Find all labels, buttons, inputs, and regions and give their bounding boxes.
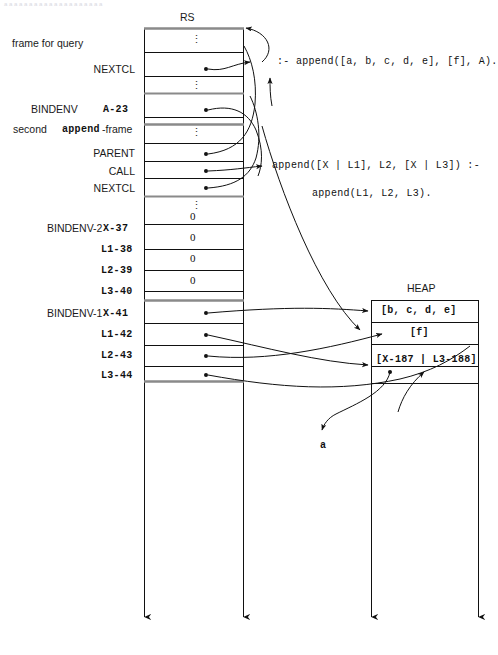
label-bindenv-1: BINDENV-1 [47,308,102,319]
heap-title: HEAP [407,283,436,294]
arrow-l142-to-heap-pair [208,335,368,365]
label-nextcl-1: NEXTCL [0,64,135,75]
label-frame-for-query: frame for query [0,38,135,49]
rs-cell-ellipsis-3: ⋮ [191,127,202,138]
label-second-append-frame-prefix: second [13,124,50,135]
label-l3-44: L3-44 [101,371,133,381]
clause-body: append(L1, L2, L3). [312,189,432,199]
rs-title: RS [180,12,195,23]
arrow-bindenv-a23 [208,108,262,176]
rs-cell-value-l138: 0 [190,232,196,243]
rs-cell-value-x37: 0 [190,211,196,222]
arrow-up-into-heap-cell [398,372,424,412]
clause-query: :- append([a, b, c, d, e], [f], A). [277,57,498,67]
rs-cell-ellipsis-2: ⋮ [191,80,202,91]
arrow-nextcl2 [208,96,259,188]
label-nextcl-2: NEXTCL [0,183,135,194]
heap-box [371,300,479,617]
label-bindenv-2: BINDENV-2 [47,223,102,234]
label-bindenv: BINDENV [31,104,78,115]
rs-cell-ellipsis-1: ⋮ [191,34,202,45]
heap-cell-f: [f] [410,328,429,338]
label-bindenv2-x37: X-37 [103,224,128,234]
label-l2-39: L2-39 [101,266,133,276]
clause-head: append([X | L1], L2, [X | L3]) :- [272,161,480,171]
heap-cell-pair: [X-187 | L3-188] [376,355,477,365]
arrow-frame-to-heap-cell [262,126,360,330]
rs-cell-value-l239: 0 [190,253,196,264]
label-l1-42: L1-42 [101,330,133,340]
arrow-head-to-append-clause [270,78,272,106]
label-bindenv-cell: A-23 [103,105,128,115]
arrow-call-to-clause [208,166,262,171]
rs-pointer-dots [204,67,208,377]
label-second-append-frame-bold: append [62,125,100,135]
atom-a-label: a [320,441,326,451]
label-l2-43: L2-43 [101,351,133,361]
rs-cell-value-l340: 0 [190,275,196,286]
label-l3-40: L3-40 [101,287,133,297]
label-l1-38: L1-38 [101,245,133,255]
label-second-append-frame-suffix: -frame [102,124,132,135]
label-parent: PARENT [0,148,135,159]
heap-cell-list: [b, c, d, e] [381,306,457,316]
label-call: CALL [0,166,135,177]
arrow-heap-to-atom-a [322,372,390,430]
label-bindenv1-x41: X-41 [103,309,128,319]
rs-stack-box [144,28,244,617]
